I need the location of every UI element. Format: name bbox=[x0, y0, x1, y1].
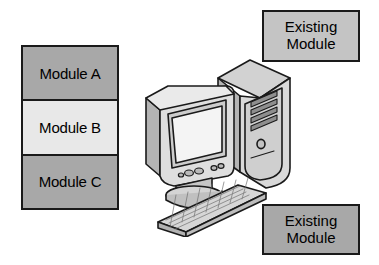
tower-power-button bbox=[257, 139, 265, 148]
monitor-left-side bbox=[146, 98, 160, 176]
desktop-computer-illustration bbox=[140, 52, 295, 237]
diagram-canvas: Module A Module B Module C Existing Modu… bbox=[0, 0, 379, 265]
module-row-b-label: Module B bbox=[39, 120, 101, 135]
existing-module-top-line2: Module bbox=[286, 36, 335, 53]
module-stack: Module A Module B Module C bbox=[21, 45, 119, 210]
module-row-c-label: Module C bbox=[39, 174, 102, 189]
module-row-a[interactable]: Module A bbox=[23, 47, 117, 101]
existing-module-top-line1: Existing bbox=[285, 19, 338, 36]
module-row-a-label: Module A bbox=[40, 66, 101, 81]
module-row-b[interactable]: Module B bbox=[23, 101, 117, 155]
module-row-c[interactable]: Module C bbox=[23, 156, 117, 208]
